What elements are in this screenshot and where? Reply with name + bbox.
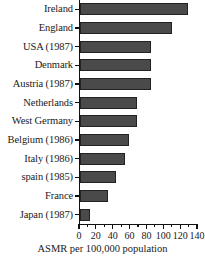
x-tick-label: 60 [125,230,135,241]
x-tick-major [146,224,147,229]
x-tick-major [129,224,130,229]
x-axis-title: ASMR per 100,000 population [0,243,205,255]
bar [80,115,137,127]
x-tick-major [78,224,79,229]
category-tick [75,9,79,10]
category-label: Denmark [35,59,73,70]
x-tick-major [196,224,197,229]
bar [80,59,151,71]
category-tick [75,83,79,84]
bar [80,41,151,53]
x-tick-minor [121,224,122,227]
x-tick-major [180,224,181,229]
category-label: Ireland [44,3,73,14]
category-tick [75,195,79,196]
category-label: Italy (1986) [24,153,73,164]
category-tick [75,121,79,122]
category-tick [75,158,79,159]
category-label: USA (1987) [23,41,73,52]
category-label: spain (1985) [21,171,73,182]
x-tick-label: 100 [156,230,171,241]
bar [80,97,137,109]
category-axis: IrelandEnglandUSA (1987)DenmarkAustria (… [0,0,76,224]
x-tick-label: 120 [173,230,188,241]
x-tick-minor [154,224,155,227]
bar-chart: IrelandEnglandUSA (1987)DenmarkAustria (… [0,0,205,260]
bar [80,209,90,221]
x-tick-major [163,224,164,229]
category-tick [75,102,79,103]
category-tick [75,214,79,215]
bar [80,134,129,146]
category-label: West Germany [12,115,73,126]
x-tick-label: 80 [141,230,151,241]
category-tick [75,65,79,66]
bar [80,78,151,90]
category-tick [75,27,79,28]
category-label: Netherlands [23,97,73,108]
category-label: Austria (1987) [13,78,73,89]
x-tick-minor [87,224,88,227]
x-tick-label: 0 [77,230,82,241]
bar [80,3,188,15]
plot-area [79,0,197,224]
x-tick-label: 20 [91,230,101,241]
category-label: England [39,22,73,33]
category-label: France [45,190,73,201]
category-tick [75,139,79,140]
x-tick-minor [104,224,105,227]
category-label: Belgium (1986) [8,134,73,145]
x-tick-minor [137,224,138,227]
bar [80,153,125,165]
x-tick-label: 140 [190,230,205,241]
x-tick-major [112,224,113,229]
bar [80,171,116,183]
x-tick-label: 40 [108,230,118,241]
x-tick-minor [171,224,172,227]
x-tick-major [95,224,96,229]
bar [80,22,172,34]
category-tick [75,177,79,178]
category-label: Japan (1987) [20,209,73,220]
category-tick [75,46,79,47]
x-tick-minor [188,224,189,227]
bar [80,190,108,202]
